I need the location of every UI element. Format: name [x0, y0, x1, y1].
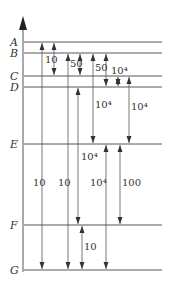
arrowhead-down-icon	[76, 217, 81, 224]
axis-arrow-icon	[19, 16, 27, 30]
transition-label: 10⁴	[111, 65, 128, 76]
arrowhead-up-icon	[40, 43, 45, 50]
level-label-g: G	[10, 264, 19, 277]
transition-label: 10	[58, 177, 71, 188]
arrowhead-up-icon	[91, 54, 96, 61]
transition-e-f: 100	[118, 145, 142, 224]
diagram-svg: ABCDEFG 1010105010⁴10⁴5010⁴10⁴10⁴10010	[0, 0, 172, 287]
arrowhead-down-icon	[80, 262, 85, 269]
arrowhead-down-icon	[118, 217, 123, 224]
transition-label: 10⁴	[81, 151, 98, 162]
arrowhead-up-icon	[104, 145, 109, 152]
arrowhead-down-icon	[40, 262, 45, 269]
transition-b-d: 50	[95, 54, 109, 86]
transition-label: 10⁴	[131, 101, 148, 112]
arrowhead-up-icon	[76, 88, 81, 95]
arrowhead-down-icon	[104, 79, 109, 86]
level-label-e: E	[9, 138, 18, 151]
level-label-f: F	[9, 219, 18, 232]
arrowhead-up-icon	[104, 54, 109, 61]
arrowhead-down-icon	[91, 136, 96, 143]
transitions: 1010105010⁴10⁴5010⁴10⁴10⁴10010	[33, 43, 148, 269]
arrowhead-down-icon	[66, 262, 71, 269]
transition-label: 10	[33, 177, 46, 188]
level-label-b: B	[9, 47, 18, 60]
transition-label: 10⁴	[95, 99, 112, 110]
transition-label: 50	[95, 62, 108, 73]
transition-label: 50	[70, 58, 83, 69]
arrowhead-down-icon	[52, 68, 57, 75]
arrowhead-up-icon	[52, 43, 57, 50]
level-label-d: D	[9, 81, 19, 94]
arrowhead-up-icon	[118, 145, 123, 152]
arrowhead-down-icon	[104, 262, 109, 269]
transition-f-g: 10	[80, 226, 97, 269]
transition-a-g: 10	[33, 43, 46, 269]
transition-label: 10	[84, 241, 97, 252]
transition-label: 10⁴	[90, 177, 107, 188]
transition-label: 100	[122, 177, 141, 188]
arrowhead-up-icon	[80, 226, 85, 233]
arrowhead-down-icon	[127, 136, 132, 143]
transition-b-c: 50	[70, 54, 83, 75]
arrowhead-down-icon	[78, 68, 83, 75]
transition-c-d: 10⁴	[111, 65, 128, 86]
transition-a-c: 10	[45, 43, 58, 75]
arrowhead-up-icon	[127, 77, 132, 84]
energy-level-diagram: ABCDEFG 1010105010⁴10⁴5010⁴10⁴10⁴10010	[0, 0, 172, 287]
transition-label: 10	[45, 54, 58, 65]
transition-b-g: 10	[58, 54, 71, 269]
